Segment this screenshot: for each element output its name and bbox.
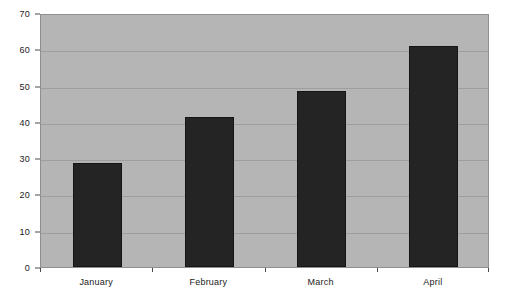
y-axis-tick-label: 50 — [20, 82, 30, 92]
x-axis-tick-mark — [265, 268, 266, 272]
y-axis-tick-label: 70 — [20, 9, 30, 19]
bar-chart: 010203040506070 JanuaryFebruaryMarchApri… — [0, 0, 506, 303]
x-axis-tick-label: March — [308, 277, 334, 287]
y-axis-tick-mark — [35, 231, 40, 232]
y-axis-tick-mark — [35, 159, 40, 160]
y-axis-tick-label: 40 — [20, 118, 30, 128]
y-axis-tick-label: 0 — [25, 263, 30, 273]
x-axis-tick-label: February — [190, 277, 228, 287]
y-axis-tick-mark — [35, 122, 40, 123]
bar — [73, 163, 122, 267]
bar — [185, 117, 234, 267]
y-axis: 010203040506070 — [0, 0, 40, 303]
bar — [409, 46, 458, 267]
y-axis-tick-label: 60 — [20, 45, 30, 55]
y-axis-tick-mark — [35, 14, 40, 15]
bar — [297, 91, 346, 267]
y-axis-tick-mark — [35, 50, 40, 51]
y-axis-tick-label: 20 — [20, 190, 30, 200]
x-axis: JanuaryFebruaryMarchApril — [40, 268, 489, 303]
y-axis-tick-label: 30 — [20, 154, 30, 164]
y-axis-tick-label: 10 — [20, 227, 30, 237]
x-axis-tick-mark — [40, 268, 41, 272]
y-axis-tick-mark — [35, 86, 40, 87]
x-axis-tick-mark — [377, 268, 378, 272]
x-axis-tick-mark — [488, 268, 489, 272]
y-axis-tick-mark — [35, 195, 40, 196]
plot-area — [40, 14, 489, 268]
x-axis-tick-mark — [152, 268, 153, 272]
x-axis-tick-label: January — [79, 277, 112, 287]
x-axis-tick-label: April — [423, 277, 442, 287]
